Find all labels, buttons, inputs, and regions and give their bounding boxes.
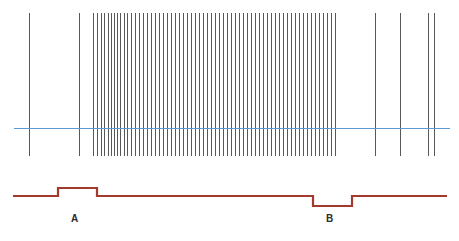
firing-rate-step-trace [13,188,447,206]
rate-trace-panel [0,0,459,241]
spike-raster-figure: A B [0,0,459,241]
